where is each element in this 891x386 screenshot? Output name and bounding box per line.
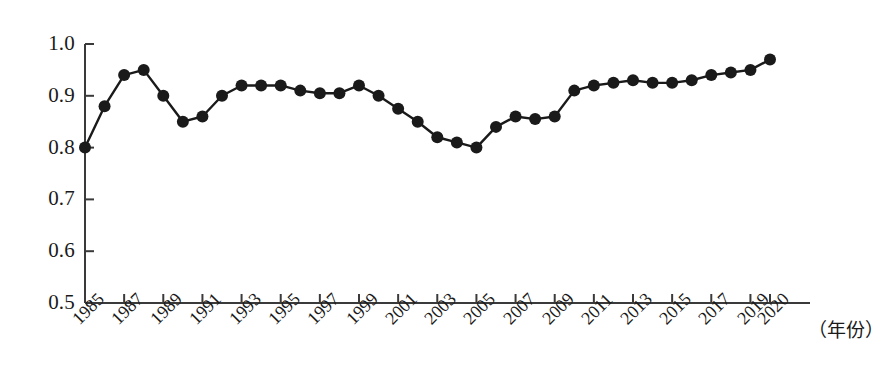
- data-point: [705, 69, 717, 81]
- data-point: [236, 79, 248, 91]
- data-point: [255, 79, 267, 91]
- data-point: [666, 77, 678, 89]
- data-point: [333, 87, 345, 99]
- data-series-line: [85, 60, 770, 148]
- data-point: [686, 74, 698, 86]
- data-point: [79, 142, 91, 154]
- y-axis-ticks: [85, 44, 94, 303]
- data-point: [216, 90, 228, 102]
- data-point: [196, 111, 208, 123]
- y-axis-tick-label: 0.9: [23, 85, 75, 106]
- data-point: [529, 113, 541, 125]
- y-axis-tick-label: 0.7: [23, 188, 75, 209]
- data-point: [118, 69, 130, 81]
- data-point: [725, 66, 737, 78]
- data-point: [549, 111, 561, 123]
- data-point: [470, 142, 482, 154]
- data-point: [275, 79, 287, 91]
- y-axis-tick-label: 0.5: [23, 292, 75, 313]
- data-point: [294, 85, 306, 97]
- data-point: [510, 111, 522, 123]
- y-axis-tick-label: 0.8: [23, 137, 75, 158]
- data-point: [744, 64, 756, 76]
- y-axis-tick-label: 0.6: [23, 240, 75, 261]
- chart-figure: 1.00.90.80.70.60.5 198519871989199119931…: [0, 0, 891, 386]
- data-point: [412, 116, 424, 128]
- data-point: [177, 116, 189, 128]
- data-point: [157, 90, 169, 102]
- data-point: [99, 100, 111, 112]
- data-point: [392, 103, 404, 115]
- data-point: [451, 136, 463, 148]
- data-point: [373, 90, 385, 102]
- data-point: [647, 77, 659, 89]
- line-chart-plot: [0, 0, 891, 386]
- data-point: [588, 79, 600, 91]
- data-point: [353, 79, 365, 91]
- data-point: [431, 131, 443, 143]
- chart-axes: [85, 44, 810, 303]
- data-point: [138, 64, 150, 76]
- data-point: [627, 74, 639, 86]
- data-point: [314, 87, 326, 99]
- data-point: [607, 77, 619, 89]
- y-axis-tick-label: 1.0: [23, 33, 75, 54]
- data-point: [764, 54, 776, 66]
- data-point: [568, 85, 580, 97]
- data-point-markers: [79, 54, 776, 154]
- data-point: [490, 121, 502, 133]
- x-axis-unit-label: （年份）: [808, 321, 884, 340]
